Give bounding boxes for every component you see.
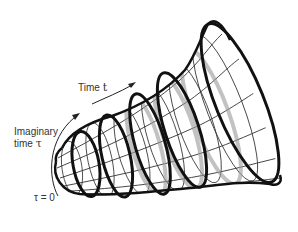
time-label: Time t — [78, 82, 107, 94]
imaginary-label-word: time — [14, 138, 33, 149]
time-symbol: t — [103, 81, 107, 94]
tau-zero-label: τ = 0 — [34, 192, 55, 204]
imaginary-time-symbol: τ — [36, 137, 42, 150]
imaginary-time-label: Imaginary time τ — [14, 126, 58, 150]
time-label-word: Time — [78, 82, 100, 93]
tau-zero-text: τ = 0 — [34, 192, 55, 203]
